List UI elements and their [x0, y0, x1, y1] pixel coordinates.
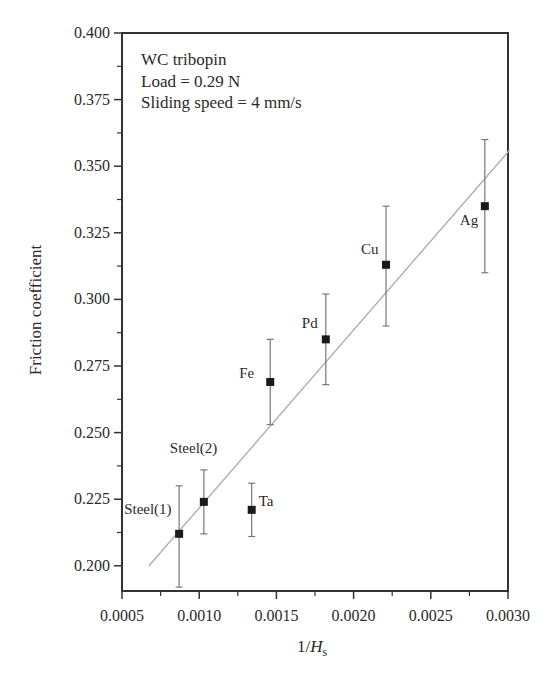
- x-tick-label: 0.0015: [254, 607, 298, 624]
- point-label: Pd: [302, 315, 318, 331]
- annotation-tribopin: WC tribopin: [141, 50, 227, 69]
- data-marker: [248, 506, 256, 514]
- point-label: Ag: [460, 212, 479, 228]
- data-marker: [175, 530, 183, 538]
- annotation-load: Load = 0.29 N: [141, 72, 240, 91]
- y-tick-label: 0.325: [74, 224, 110, 241]
- annotation-speed: Sliding speed = 4 mm/s: [141, 93, 302, 112]
- point-label: Steel(1): [124, 501, 171, 518]
- y-tick-label: 0.300: [74, 290, 110, 307]
- friction-chart: 0.2000.2250.2500.2750.3000.3250.3500.375…: [0, 0, 560, 683]
- data-marker: [322, 335, 330, 343]
- point-label: Steel(2): [170, 440, 217, 457]
- y-tick-label: 0.350: [74, 157, 110, 174]
- data-marker: [382, 261, 390, 269]
- y-tick-label: 0.200: [74, 557, 110, 574]
- x-tick-label: 0.0020: [332, 607, 376, 624]
- y-tick-label: 0.275: [74, 357, 110, 374]
- y-tick-label: 0.400: [74, 24, 110, 41]
- data-marker: [266, 378, 274, 386]
- y-tick-label: 0.225: [74, 490, 110, 507]
- plot-frame: [122, 33, 508, 591]
- y-tick-label: 0.375: [74, 91, 110, 108]
- x-tick-label: 0.0030: [486, 607, 530, 624]
- x-tick-label: 0.0010: [177, 607, 221, 624]
- point-label: Cu: [361, 241, 379, 257]
- data-marker: [481, 202, 489, 210]
- y-axis-label: Friction coefficient: [26, 245, 45, 376]
- x-tick-label: 0.0005: [100, 607, 144, 624]
- x-tick-label: 0.0025: [409, 607, 453, 624]
- point-label: Fe: [239, 365, 254, 381]
- y-tick-label: 0.250: [74, 424, 110, 441]
- data-marker: [200, 498, 208, 506]
- point-label: Ta: [259, 493, 274, 509]
- x-axis-label: 1/Hs: [297, 637, 328, 659]
